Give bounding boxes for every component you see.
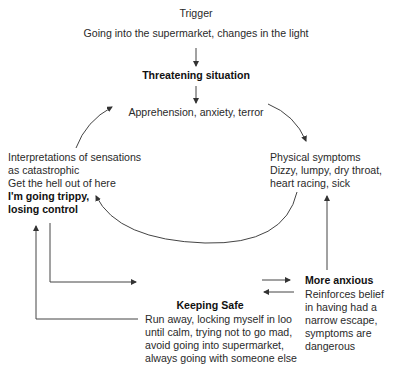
interpretations-bold-1: I'm going trippy, [8,190,89,203]
trigger-heading: Trigger [96,7,296,20]
keeping-safe-line-2: until calm, trying not to go mad, [145,326,292,339]
arrow-physical-to-interpretations [96,192,297,243]
arrow-interpretations-to-keeping-safe [50,223,136,282]
physical-line-2: Dizzy, lumpy, dry throat, [270,164,382,177]
more-anxious-line-3: narrow escape, [305,314,377,327]
more-anxious-heading: More anxious [305,274,373,287]
keeping-safe-heading: Keeping Safe [140,299,280,312]
more-anxious-line-1: Reinforces belief [305,288,384,301]
keeping-safe-line-4: always going with someone else [145,352,297,365]
more-anxious-line-5: dangerous [305,340,355,353]
interpretations-bold-2: losing control [8,203,78,216]
threat-heading: Threatening situation [96,69,296,82]
keeping-safe-line-1: Run away, locking myself in loo [145,313,292,326]
arrow-keeping-safe-to-interpretations [36,226,138,319]
more-anxious-line-4: symptoms are [305,327,372,340]
interpretations-line-1: Interpretations of sensations [8,151,141,164]
physical-line-1: Physical symptoms [270,151,361,164]
interpretations-line-3: Get the hell out of here [8,177,116,190]
threat-text: Apprehension, anxiety, terror [96,106,296,119]
more-anxious-line-2: in having had a [305,301,377,314]
keeping-safe-line-3: avoid going into supermarket, [145,339,284,352]
interpretations-line-2: as catastrophic [8,164,79,177]
trigger-text: Going into the supermarket, changes in t… [46,27,346,40]
physical-line-3: heart racing, sick [270,177,350,190]
